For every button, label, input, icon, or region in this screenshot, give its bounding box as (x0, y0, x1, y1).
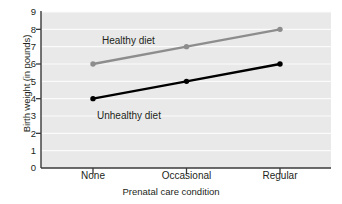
x-axis-title: Prenatal care condition (0, 186, 342, 197)
x-tick-label-regular: Regular (262, 170, 297, 181)
series-label-healthy-diet: Healthy diet (102, 35, 155, 46)
x-tick-label-none: None (81, 170, 105, 181)
x-tick-label-occasional: Occasional (162, 170, 211, 181)
plot-background (41, 12, 331, 168)
y-axis-ticks (36, 29, 41, 133)
line-chart: Birth weight (in pounds) 9 8 7 6 5 4 3 2… (0, 0, 342, 204)
series-label-unhealthy-diet: Unhealthy diet (97, 110, 161, 121)
